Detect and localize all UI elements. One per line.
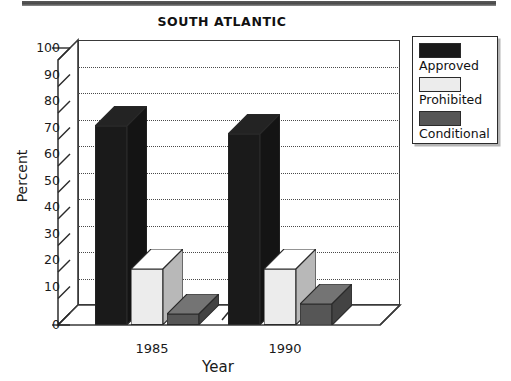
legend-label-prohibited: Prohibited [419,93,493,106]
y-tick-30: 30 [26,228,60,241]
y-tick-10: 10 [26,281,60,294]
legend-label-approved: Approved [419,59,493,72]
y-tick-0: 0 [26,319,60,332]
scan-edge-bar [22,1,496,6]
y-tick-100: 100 [26,42,60,55]
y-tick-50: 50 [26,175,60,188]
x-tick-1990: 1990 [250,341,320,356]
x-tick-1985: 1985 [117,341,187,356]
y-tick-60: 60 [26,148,60,161]
y-tick-80: 80 [26,95,60,108]
legend-label-conditional: Conditional [419,127,493,140]
chart-title: SOUTH ATLANTIC [0,14,444,29]
y-tick-40: 40 [26,201,60,214]
y-tick-20: 20 [26,254,60,267]
y-tick-70: 70 [26,122,60,135]
legend-swatch-approved [419,43,461,58]
legend-item-conditional[interactable]: Conditional [419,111,493,140]
legend: Approved Prohibited Conditional [412,36,498,144]
legend-swatch-conditional [419,111,461,126]
legend-item-approved[interactable]: Approved [419,43,493,72]
x-axis-label: Year [128,358,308,376]
legend-swatch-prohibited [419,77,461,92]
legend-item-prohibited[interactable]: Prohibited [419,77,493,106]
chart-figure: SOUTH ATLANTIC [0,0,511,381]
bar-1985-conditional [167,294,219,325]
y-axis-label: Percent [14,126,30,226]
bar-1990-conditional [300,284,352,325]
y-tick-90: 90 [26,69,60,82]
